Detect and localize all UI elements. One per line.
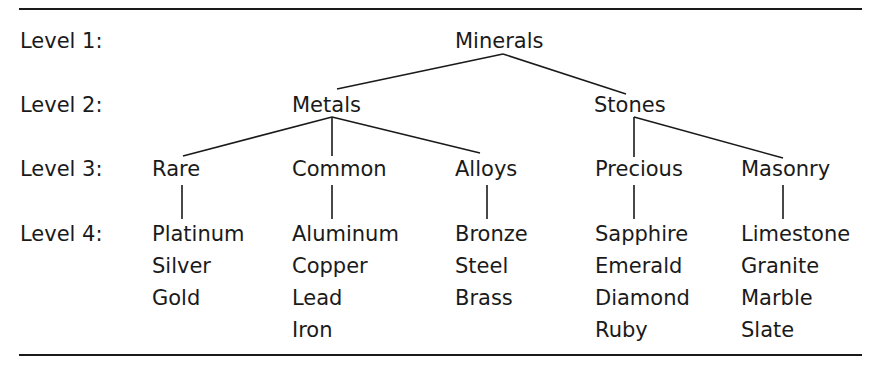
- node-stones: Stones: [594, 89, 666, 121]
- leaf-bronze: Bronze: [455, 218, 528, 250]
- leaf-lead: Lead: [292, 282, 399, 314]
- node-masonry: Masonry: [741, 153, 830, 185]
- leaf-steel: Steel: [455, 250, 528, 282]
- node-common: Common: [292, 153, 387, 185]
- leaf-limestone: Limestone: [741, 218, 850, 250]
- leaves-alloys: Bronze Steel Brass: [455, 218, 528, 314]
- node-rare: Rare: [152, 153, 200, 185]
- leaf-iron: Iron: [292, 314, 399, 346]
- edge-metals-rare: [183, 117, 332, 156]
- leaf-diamond: Diamond: [595, 282, 690, 314]
- leaf-copper: Copper: [292, 250, 399, 282]
- leaf-brass: Brass: [455, 282, 528, 314]
- leaf-silver: Silver: [152, 250, 245, 282]
- leaf-marble: Marble: [741, 282, 850, 314]
- leaves-precious: Sapphire Emerald Diamond Ruby: [595, 218, 690, 346]
- edge-minerals-metals: [337, 54, 503, 89]
- leaf-aluminum: Aluminum: [292, 218, 399, 250]
- leaf-ruby: Ruby: [595, 314, 690, 346]
- level-3-label: Level 3:: [20, 153, 103, 185]
- bottom-rule: [19, 354, 862, 356]
- level-1-label: Level 1:: [20, 25, 103, 57]
- leaves-rare: Platinum Silver Gold: [152, 218, 245, 314]
- leaf-emerald: Emerald: [595, 250, 690, 282]
- edge-stones-masonry: [634, 117, 783, 158]
- leaf-gold: Gold: [152, 282, 245, 314]
- level-2-label: Level 2:: [20, 89, 103, 121]
- node-metals: Metals: [292, 89, 361, 121]
- node-precious: Precious: [595, 153, 683, 185]
- leaf-platinum: Platinum: [152, 218, 245, 250]
- node-alloys: Alloys: [455, 153, 517, 185]
- level-4-label: Level 4:: [20, 218, 103, 250]
- leaves-masonry: Limestone Granite Marble Slate: [741, 218, 850, 346]
- node-minerals: Minerals: [455, 25, 543, 57]
- edge-metals-alloys: [332, 117, 480, 153]
- leaf-granite: Granite: [741, 250, 850, 282]
- leaf-slate: Slate: [741, 314, 850, 346]
- edge-minerals-stones: [503, 54, 626, 94]
- leaf-sapphire: Sapphire: [595, 218, 690, 250]
- leaves-common: Aluminum Copper Lead Iron: [292, 218, 399, 346]
